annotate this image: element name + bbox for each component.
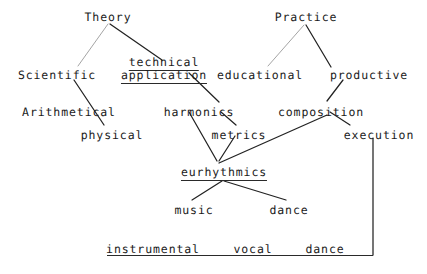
edge-practice-educational — [268, 25, 304, 66]
node-theory: Theory — [85, 11, 132, 24]
node-educational: educational — [217, 69, 303, 82]
node-application: application — [121, 69, 207, 84]
node-productive: productive — [330, 69, 408, 82]
bottom-rule — [107, 255, 373, 256]
node-practice: Practice — [275, 11, 338, 24]
node-eurhythmics: eurhythmics — [181, 166, 267, 181]
node-arithmetical: Arithmetical — [22, 106, 116, 119]
edge-productive-composition — [327, 80, 343, 101]
edge-eurhythmics-music — [192, 181, 222, 200]
node-scientific: Scientific — [18, 69, 96, 82]
diagram-canvas: TheoryPracticetechnicalScientificapplica… — [0, 0, 427, 274]
node-metrics: metrics — [212, 129, 267, 142]
node-composition: composition — [278, 106, 364, 119]
edge-eurhythmics-dance — [224, 181, 286, 200]
node-dance_mid: dance — [269, 204, 308, 217]
node-physical: physical — [81, 129, 144, 142]
node-harmonics: harmonics — [164, 106, 234, 119]
node-execution: execution — [344, 129, 414, 142]
node-music: music — [174, 204, 213, 217]
edge-practice-productive — [306, 25, 331, 67]
edge-theory-scientific — [78, 24, 108, 66]
